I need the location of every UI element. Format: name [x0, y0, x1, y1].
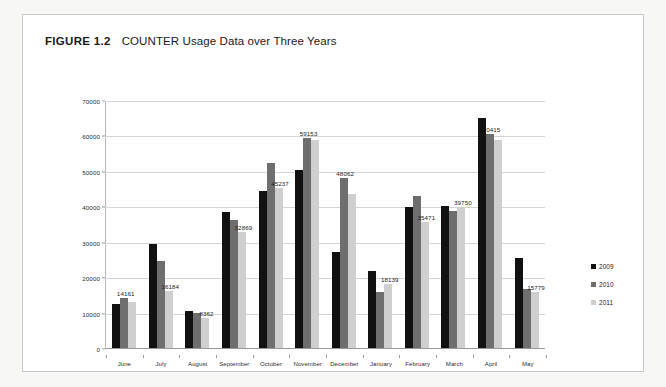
bar-2009-march	[441, 206, 449, 348]
bar-2011-july: 16184	[165, 291, 173, 348]
x-tick-mark	[253, 355, 254, 358]
y-tick-mark	[102, 101, 105, 102]
x-tick-mark	[473, 355, 474, 358]
bar-2011-november	[311, 140, 319, 348]
x-tick-mark	[436, 355, 437, 358]
bar-group: 16184	[143, 101, 180, 348]
x-axis-labels: JuneJulyAugustSeptemberOctoberNovemberDe…	[106, 355, 546, 367]
bar-2009-april	[478, 118, 486, 348]
legend-swatch-icon	[591, 264, 596, 269]
bar-2009-august	[185, 311, 193, 348]
y-tick-label: 70000	[82, 98, 100, 105]
y-tick-mark	[102, 171, 105, 172]
bar-2011-june	[128, 302, 136, 348]
figure-number: FIGURE 1.2	[45, 35, 111, 47]
bar-value-label: 60415	[483, 126, 501, 133]
x-tick-label: August	[179, 355, 216, 367]
bar-value-label: 18139	[381, 276, 399, 283]
figure-card: FIGURE 1.2 COUNTER Usage Data over Three…	[22, 14, 644, 372]
bar-2011-december	[348, 194, 356, 348]
bar-group: 32869	[216, 101, 253, 348]
bar-2010-october	[267, 163, 275, 348]
bar-group: 60415	[472, 101, 509, 348]
figure-caption: FIGURE 1.2 COUNTER Usage Data over Three…	[45, 35, 337, 47]
y-tick-mark	[102, 313, 105, 314]
bar-value-label: 39750	[454, 199, 472, 206]
bar-group: 14161	[106, 101, 143, 348]
x-tick-mark	[399, 355, 400, 358]
bar-group: 35471	[399, 101, 436, 348]
bar-group: 48062	[325, 101, 362, 348]
legend-label: 2010	[599, 281, 614, 288]
bar-group: 18139	[362, 101, 399, 348]
bar-2010-april: 60415	[486, 134, 494, 348]
y-tick-mark	[102, 278, 105, 279]
bar-group: 8362	[179, 101, 216, 348]
legend-item-2010: 2010	[591, 281, 614, 288]
x-tick-mark	[326, 355, 327, 358]
y-tick-mark	[102, 242, 105, 243]
x-tick-mark	[546, 355, 547, 358]
legend-item-2011: 2011	[591, 299, 614, 306]
bar-2010-may	[523, 289, 531, 348]
bar-value-label: 16184	[161, 283, 179, 290]
bar-group: 15779	[508, 101, 545, 348]
bar-2009-june	[112, 304, 120, 348]
legend-swatch-icon	[591, 300, 596, 305]
x-tick-label: May	[509, 355, 546, 367]
x-tick-label: April	[473, 355, 510, 367]
y-tick-mark	[102, 207, 105, 208]
y-tick-label: 60000	[82, 133, 100, 140]
bar-2010-december: 48062	[340, 178, 348, 348]
y-tick-label: 0	[96, 346, 100, 353]
legend-label: 2009	[599, 263, 614, 270]
x-tick-mark	[289, 355, 290, 358]
bar-2010-january	[376, 292, 384, 348]
legend-item-2009: 2009	[591, 263, 614, 270]
bar-2009-may	[515, 258, 523, 348]
x-tick-mark	[143, 355, 144, 358]
y-tick-label: 50000	[82, 168, 100, 175]
x-tick-label: March	[436, 355, 473, 367]
x-tick-label: July	[143, 355, 180, 367]
bar-2009-september	[222, 212, 230, 348]
bar-2009-november	[295, 170, 303, 348]
bar-2011-august: 8362	[201, 318, 209, 348]
x-tick-mark	[363, 355, 364, 358]
bar-value-label: 48062	[336, 170, 354, 177]
bar-value-label: 32869	[235, 224, 253, 231]
bar-2011-october: 45237	[275, 188, 283, 348]
bar-2010-september	[230, 220, 238, 348]
y-tick-mark	[102, 349, 105, 350]
figure-page: FIGURE 1.2 COUNTER Usage Data over Three…	[0, 0, 666, 387]
plot-area: 010000200003000040000500006000070000 141…	[105, 101, 545, 349]
bar-2011-september: 32869	[238, 232, 246, 348]
legend-swatch-icon	[591, 282, 596, 287]
bar-group: 59153	[289, 101, 326, 348]
bar-2011-may: 15779	[531, 292, 539, 348]
figure-title: COUNTER Usage Data over Three Years	[122, 35, 337, 47]
bar-groups: 1416116184836232869452375915348062181393…	[106, 101, 545, 348]
chart-legend: 200920102011	[591, 263, 614, 306]
x-tick-label: January	[363, 355, 400, 367]
bar-2010-august	[193, 313, 201, 348]
y-tick-label: 40000	[82, 204, 100, 211]
bar-2009-july	[149, 244, 157, 349]
x-tick-mark	[106, 355, 107, 358]
bar-2010-june: 14161	[120, 298, 128, 348]
bar-value-label: 15779	[527, 284, 545, 291]
bar-value-label: 45237	[271, 180, 289, 187]
x-tick-label: October	[253, 355, 290, 367]
x-tick-label: June	[106, 355, 143, 367]
legend-label: 2011	[599, 299, 613, 306]
bar-2011-february: 35471	[421, 222, 429, 348]
y-tick-label: 30000	[82, 239, 100, 246]
bar-2009-october	[259, 191, 267, 348]
bar-2010-november: 59153	[303, 138, 311, 348]
bar-value-label: 14161	[117, 290, 135, 297]
bar-2009-january	[368, 271, 376, 348]
y-tick-label: 20000	[82, 275, 100, 282]
x-tick-mark	[179, 355, 180, 358]
x-tick-label: November	[289, 355, 326, 367]
x-tick-mark	[509, 355, 510, 358]
